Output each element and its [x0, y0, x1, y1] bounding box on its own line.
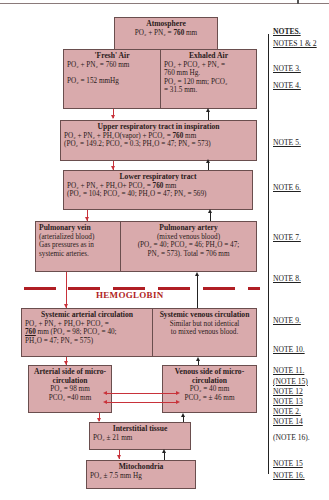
arrowhead-right-icon — [176, 400, 180, 404]
lower-respiratory-total: 760 — [153, 182, 164, 190]
pulmonary-artery-title: Pulmonary artery — [124, 224, 253, 233]
upper-respiratory-values: (PO₂ = 149.2; PCO₂ = 0.3; PH₂O = 47; PN₂… — [64, 140, 253, 149]
pulmonary-vein-title: Pulmonary vein — [39, 224, 117, 233]
note-link[interactable]: NOTE 9. — [273, 316, 301, 325]
systemic-venous-box: Systemic venous circulation Similar but … — [152, 308, 257, 357]
fresh-air-box: 'Fresh' Air PO₂ + PN₂ = 760 mm PO₂ = 152… — [63, 49, 161, 109]
mitochondria-po2: PO₂ ± 7.5 mm Hg — [90, 472, 192, 481]
venous-micro-box: Venous side of micro-circulation PO₂ = 4… — [162, 365, 257, 413]
pulmonary-vein-line2: Gas pressures as in — [39, 241, 117, 250]
note-link[interactable]: (NOTE 15) — [273, 377, 308, 386]
arrowhead-up-icon — [196, 357, 200, 361]
barrier-dash — [203, 287, 235, 290]
mitochondria-title: Mitochondria — [90, 463, 192, 472]
fresh-air-po2: PO₂ = 152 mmHg — [67, 77, 157, 86]
exhaled-air-title: Exhaled Air — [164, 52, 253, 61]
atmosphere-formula: PO₂ + PN₂ = — [135, 29, 174, 37]
note-link[interactable]: NOTE 4. — [273, 81, 301, 90]
pulmonary-vein-box: Pulmonary vein (arterialized blood) Gas … — [35, 221, 121, 272]
note-link[interactable]: NOTE 15 — [273, 459, 303, 468]
interstitial-title: Interstitial tissue — [93, 425, 187, 434]
systemic-arterial-total: 760 — [25, 328, 36, 336]
arterial-micro-title: Arterial side of micro-circulation — [32, 368, 108, 385]
note-link[interactable]: NOTE 3. — [273, 64, 301, 73]
arrow-upper-to-exhaled — [208, 112, 209, 120]
arrow-artery-to-lower — [210, 213, 211, 221]
arrowhead-up-icon — [206, 108, 210, 112]
top-rule-mark — [297, 0, 299, 4]
pulmonary-artery-line3: PN₂ = 573). Total = 706 mm — [124, 250, 253, 259]
note-link[interactable]: NOTE 5. — [273, 138, 301, 147]
exhaled-air-box: Exhaled Air PO₂ + PCO₂ + PN₂ = 760 mm Hg… — [160, 49, 257, 109]
interstitial-po2: PO₂ ± 21 mm — [93, 434, 187, 443]
exhaled-air-po2: PO₂ = 120 mm; PCO₂ — [164, 78, 253, 87]
arrowhead-down-icon — [111, 115, 115, 119]
note-link[interactable]: NOTES 1 & 2 — [273, 39, 317, 48]
systemic-venous-title: Systemic venous circulation — [156, 311, 253, 320]
note-link[interactable]: NOTE 14 — [273, 417, 303, 426]
note-link[interactable]: NOTE 16. — [273, 471, 305, 480]
notes-divider — [268, 34, 269, 474]
arterial-micro-po2: PO₂ = 98 mm — [32, 385, 108, 394]
atmosphere-title: Atmosphere — [118, 20, 214, 29]
pulmonary-artery-box: Pulmonary artery (mixed venous blood) (P… — [120, 221, 257, 272]
arterial-micro-box: Arterial side of micro-circulation PO₂ =… — [28, 365, 112, 413]
note-link[interactable]: NOTE 7. — [273, 233, 301, 242]
barrier-dash — [248, 287, 260, 290]
systemic-arterial-box: Systemic arterial circulation PO₂ + PN₂ … — [21, 308, 153, 357]
arrow-venous-to-artery — [197, 276, 198, 308]
systemic-arterial-values-2: PH₂O = 47; PN₂ = 575) — [25, 337, 149, 346]
arrow-vein-to-systemic-arterial — [66, 272, 67, 308]
upper-respiratory-box: Upper respiratory tract in inspiration P… — [60, 120, 257, 161]
arterial-micro-pco2: PCO₂ =40 mm — [32, 394, 108, 403]
systemic-venous-line1: Similar but not identical — [156, 320, 253, 329]
arrowhead-up-icon — [162, 449, 166, 453]
systemic-arterial-formula: PO₂ + PN₂ + PH₂O+ PCO₂ = — [25, 320, 149, 329]
upper-respiratory-title: Upper respiratory tract in inspiration — [64, 123, 253, 132]
atmosphere-box: Atmosphere PO₂ + PN₂ = 760 mm — [114, 17, 218, 50]
pulmonary-vein-line1: (arterialized blood) — [39, 233, 117, 242]
note-link[interactable]: NOTE 8. — [273, 274, 301, 283]
lower-respiratory-formula: PO₂ + PN₂ + PH₂O+ PCO₂ = — [67, 182, 153, 190]
exchange-arrow-o2 — [106, 393, 178, 394]
exhaled-air-pco2: = 31.5 mm. — [164, 86, 253, 95]
note-link[interactable]: NOTE 2. — [273, 407, 301, 416]
note-link[interactable]: NOTE 6. — [273, 183, 301, 192]
arrow-mito-to-interstitial — [164, 452, 165, 460]
pulmonary-vein-line3: systemic arteries. — [39, 250, 117, 259]
note-ref: (NOTE 16). — [273, 433, 310, 442]
hemoglobin-label: HEMOGLOBIN — [96, 290, 164, 300]
exchange-arrow-co2 — [106, 402, 178, 403]
arrowhead-up-icon — [208, 209, 212, 213]
note-link[interactable]: NOTE 12 — [273, 387, 303, 396]
upper-respiratory-unit: mm — [183, 132, 196, 140]
lower-respiratory-box: Lower respiratory tract PO₂ + PN₂ + PH₂O… — [63, 170, 253, 210]
lower-respiratory-unit: mm — [163, 182, 176, 190]
barrier-dash — [24, 287, 56, 290]
atmosphere-total: 760 — [173, 29, 184, 37]
upper-respiratory-total: 760 — [173, 132, 184, 140]
arrowhead-left-icon — [103, 400, 107, 404]
notes-header: NOTES. — [273, 27, 301, 36]
note-link[interactable]: NOTE 10. — [273, 345, 305, 354]
upper-respiratory-formula: PO₂ + PN₂ + PH₂O(vapor) + PCO₂ = — [64, 132, 173, 140]
fresh-air-title: 'Fresh' Air — [67, 52, 157, 61]
exhaled-air-total: 760 mm Hg. — [164, 69, 253, 78]
arrowhead-up-icon — [206, 159, 210, 163]
interstitial-box: Interstitial tissue PO₂ ± 21 mm — [89, 422, 191, 450]
venous-micro-title: Venous side of micro-circulation — [166, 368, 253, 385]
arrowhead-right-icon — [176, 391, 180, 395]
pulmonary-artery-line1: (mixed venous blood) — [124, 233, 253, 242]
mitochondria-box: Mitochondria PO₂ ± 7.5 mm Hg — [86, 460, 196, 489]
atmosphere-unit: mm — [184, 29, 197, 37]
fresh-air-formula: PO₂ + PN₂ = 760 mm — [67, 61, 157, 70]
arrowhead-down-icon — [117, 455, 121, 459]
pulmonary-artery-line2: (PO₂ = 40; PCO₂ = 46; PH₂O = 47; — [124, 241, 253, 250]
arrowhead-up-icon — [181, 413, 185, 417]
note-link[interactable]: NOTE 11. — [273, 366, 304, 375]
systemic-arterial-values: mm (PO₂ = 98; PCO₂ = 40; — [36, 328, 117, 336]
top-rule — [0, 3, 329, 4]
systemic-venous-line2: to mixed venous blood. — [156, 328, 253, 337]
note-link[interactable]: NOTE 13 — [273, 397, 303, 406]
arrowhead-up-icon — [195, 272, 199, 276]
